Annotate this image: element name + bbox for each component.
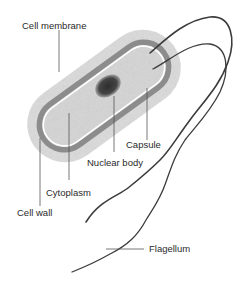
label-capsule: Capsule [126,140,161,150]
label-cell-wall: Cell wall [17,208,52,218]
label-cytoplasm: Cytoplasm [46,188,91,198]
bacterium-diagram [0,0,242,290]
label-cell-membrane: Cell membrane [22,21,86,31]
label-flagellum: Flagellum [149,244,190,254]
label-nuclear-body: Nuclear body [87,158,143,168]
